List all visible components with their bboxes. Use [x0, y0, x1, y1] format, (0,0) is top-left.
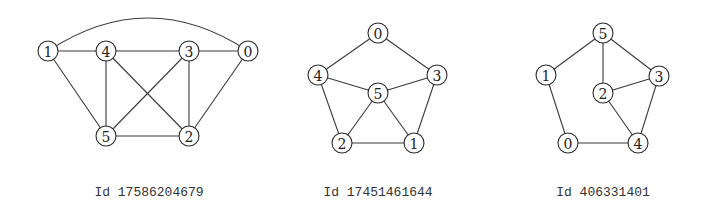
node-0: 0	[558, 133, 578, 153]
edge-1-5	[48, 51, 106, 136]
node-1: 1	[404, 133, 424, 153]
graph-caption: Id 17451461644	[323, 185, 432, 200]
node-5: 5	[593, 23, 613, 43]
edge-5-3	[603, 33, 659, 76]
graph-caption: Id 17586204679	[94, 185, 203, 200]
node-label: 2	[185, 129, 194, 145]
node-label: 3	[185, 44, 194, 60]
node-4: 4	[96, 41, 116, 61]
node-label: 3	[433, 68, 442, 84]
node-label: 3	[655, 69, 664, 85]
node-label: 1	[542, 68, 551, 84]
node-label: 2	[338, 136, 347, 152]
node-4: 4	[628, 133, 648, 153]
node-2: 2	[593, 83, 613, 103]
node-4: 4	[308, 65, 328, 85]
node-0: 0	[238, 41, 258, 61]
edge-0-4	[318, 33, 378, 75]
edge-4-2	[318, 75, 342, 143]
node-2: 2	[179, 126, 199, 146]
edge-1-0-curved	[48, 18, 248, 51]
node-5: 5	[96, 126, 116, 146]
graph-caption: Id 406331401	[556, 185, 650, 200]
node-label: 5	[374, 86, 383, 102]
node-3: 3	[179, 41, 199, 61]
graph-canvas: 012345Id 17586204679 012345Id 1745146164…	[0, 0, 701, 220]
node-5: 5	[368, 83, 388, 103]
node-label: 0	[564, 136, 573, 152]
edges	[48, 18, 248, 136]
node-2: 2	[332, 133, 352, 153]
node-label: 5	[599, 26, 608, 42]
graph-3: 012345Id 406331401	[536, 23, 669, 200]
node-3: 3	[427, 65, 447, 85]
edge-1-0	[546, 75, 568, 143]
edge-5-1	[546, 33, 603, 75]
edge-3-1	[414, 75, 437, 143]
node-label: 4	[634, 136, 643, 152]
node-label: 0	[374, 26, 383, 42]
node-label: 1	[44, 44, 53, 60]
node-0: 0	[368, 23, 388, 43]
node-3: 3	[649, 66, 669, 86]
graph-1: 012345Id 17586204679	[38, 18, 258, 200]
node-label: 1	[410, 136, 419, 152]
node-1: 1	[536, 65, 556, 85]
node-label: 4	[102, 44, 111, 60]
node-label: 5	[102, 129, 111, 145]
edge-0-3	[378, 33, 437, 75]
edge-0-2	[189, 51, 248, 136]
node-1: 1	[38, 41, 58, 61]
node-label: 0	[244, 44, 253, 60]
node-label: 4	[314, 68, 323, 84]
graph-2: 012345Id 17451461644	[308, 23, 447, 200]
node-label: 2	[599, 86, 608, 102]
